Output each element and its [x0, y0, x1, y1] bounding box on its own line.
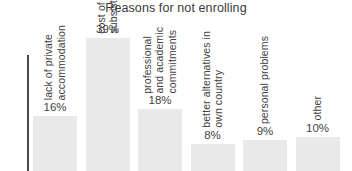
- category-label-line: professional: [142, 36, 153, 94]
- category-label-line: and academic: [154, 27, 165, 94]
- bar-value-label: 10%: [292, 122, 344, 134]
- category-label: other: [292, 34, 344, 121]
- bar-column[interactable]: 39%cost of travel andsubsistence: [82, 34, 134, 171]
- category-label-line: lack of private: [43, 34, 54, 100]
- category-label-line: better alternatives in: [201, 31, 212, 128]
- bar-value-label: 16%: [29, 101, 81, 113]
- category-label-line: cost of travel and: [96, 0, 107, 34]
- category-label: better alternatives inown country: [187, 34, 239, 128]
- category-label-line: accommodation: [56, 25, 67, 100]
- category-label: personal problems: [239, 34, 291, 124]
- bar-value-label: 8%: [187, 129, 239, 141]
- bar-value-label: 9%: [239, 125, 291, 137]
- bar-column[interactable]: 16%lack of privateaccommodation: [29, 34, 81, 171]
- bar[interactable]: [191, 144, 235, 171]
- chart-container: Reasons for not enrolling 16%lack of pri…: [0, 0, 352, 171]
- category-label: lack of privateaccommodation: [29, 34, 81, 100]
- category-label-line: other: [312, 96, 323, 120]
- category-label-line: subsistence: [108, 0, 119, 34]
- bar[interactable]: [33, 116, 77, 171]
- bar-column[interactable]: 10%other: [292, 34, 344, 171]
- category-label-line: commitments: [167, 30, 178, 94]
- plot-area: 16%lack of privateaccommodation39%cost o…: [29, 34, 352, 171]
- category-label-line: personal problems: [259, 36, 270, 124]
- category-label-line: own country: [213, 70, 224, 128]
- bar[interactable]: [243, 140, 287, 171]
- bar[interactable]: [86, 38, 130, 171]
- bar-column[interactable]: 18%professionaland academiccommitments: [134, 34, 186, 171]
- chart-title: Reasons for not enrolling: [0, 1, 352, 15]
- bar[interactable]: [296, 137, 340, 171]
- bar[interactable]: [138, 109, 182, 171]
- bar-column[interactable]: 9%personal problems: [239, 34, 291, 171]
- bar-column[interactable]: 8%better alternatives inown country: [187, 34, 239, 171]
- category-label: professionaland academiccommitments: [134, 34, 186, 93]
- bar-value-label: 18%: [134, 94, 186, 106]
